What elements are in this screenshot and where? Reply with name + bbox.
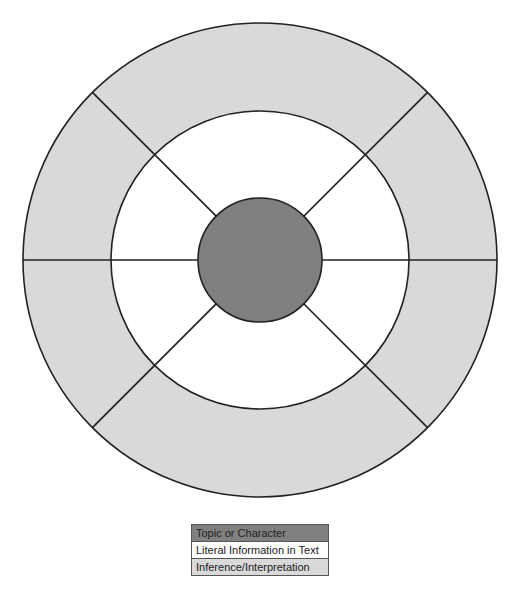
legend-item-inference: Inference/Interpretation xyxy=(192,559,328,575)
legend-item-topic: Topic or Character xyxy=(192,525,328,542)
legend: Topic or Character Literal Information i… xyxy=(191,524,329,576)
hub-topic xyxy=(198,198,322,322)
wheel-diagram xyxy=(0,0,518,520)
legend-item-literal: Literal Information in Text xyxy=(192,542,328,559)
